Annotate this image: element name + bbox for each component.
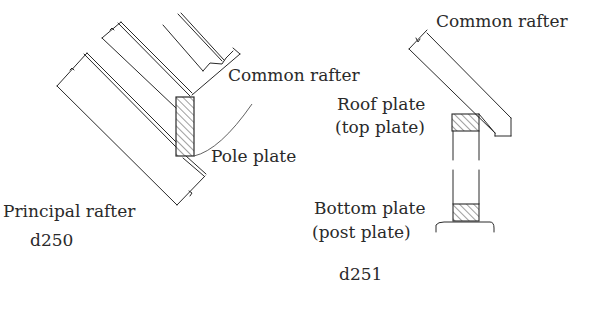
label-pole-plate: Pole plate [211,148,296,165]
diagram-canvas: Common rafter Pole plate Principal rafte… [0,0,600,327]
label-principal-rafter: Principal rafter [3,203,135,220]
label-roof-plate-alt: (top plate) [335,119,425,136]
figure-d250-drawing [0,0,600,327]
label-bottom-plate: Bottom plate [314,200,426,217]
caption-d250: d250 [30,232,73,249]
label-common-rafter-d251: Common rafter [436,13,568,30]
caption-d251: d251 [339,266,382,283]
label-roof-plate: Roof plate [337,96,425,113]
label-bottom-plate-alt: (post plate) [312,224,411,241]
label-common-rafter-d250: Common rafter [228,67,360,84]
